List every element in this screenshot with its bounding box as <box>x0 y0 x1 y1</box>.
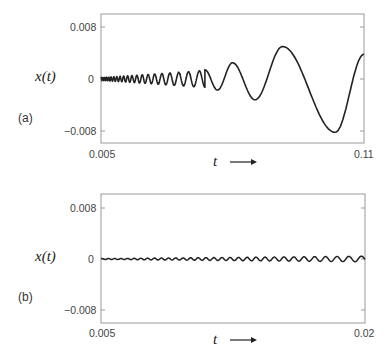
panel-b-plot <box>0 0 388 352</box>
panel-label-b: (b) <box>18 290 33 304</box>
ytick-label-b-bottom: −0.008 <box>64 304 96 316</box>
xlabel-b: t <box>213 331 217 348</box>
xtick-label-b-left: 0.005 <box>89 327 115 339</box>
ytick-label-b-top: 0.008 <box>70 202 96 214</box>
ytick-label-b-mid: 0 <box>88 253 94 265</box>
waveform-b <box>101 256 365 262</box>
xtick-label-b-right: 0.02 <box>354 327 374 339</box>
ylabel-b: x(t) <box>35 248 56 265</box>
